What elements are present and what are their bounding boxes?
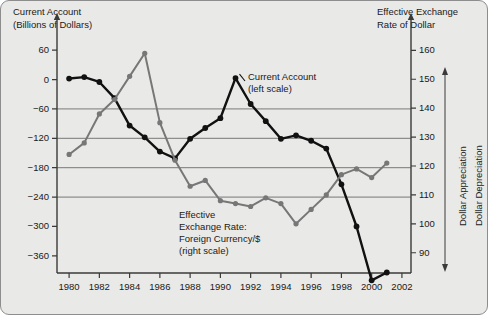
left-axis-tick-label: 60 [1,45,49,55]
data-point [308,138,314,144]
data-point [157,149,163,155]
x-axis-tick-label: 2000 [357,282,387,292]
x-axis-tick-label: 1998 [326,282,356,292]
data-point [233,201,238,206]
x-axis-tick-label: 1986 [145,282,175,292]
right-axis-tick-label: 140 [419,103,435,113]
data-point [339,181,345,187]
data-point [203,178,208,183]
x-axis-tick-label: 1996 [296,282,326,292]
data-point [248,101,254,107]
left-axis-tick-label: −300 [1,221,49,231]
data-point [97,111,102,116]
data-point [127,123,133,129]
data-point [142,51,147,56]
x-axis-tick-label: 1984 [115,282,145,292]
x-axis-tick-label: 1990 [205,282,235,292]
right-axis-tick-label: 90 [419,248,430,258]
left-axis-tick-label: −180 [1,163,49,173]
data-point [384,161,389,166]
data-point [157,120,162,125]
data-point [81,74,87,80]
data-point [112,97,117,102]
data-point [248,204,253,209]
left-axis-tick-label: −240 [1,192,49,202]
data-point [233,75,239,81]
data-point [324,192,329,197]
right-axis-tick-label: 120 [419,161,435,171]
left-axis-tick-label: −60 [1,104,49,114]
x-axis-tick-label: 1982 [84,282,114,292]
data-point [202,125,208,131]
data-point [369,175,374,180]
right-axis-tick-label: 100 [419,219,435,229]
x-axis-tick-label: 2002 [387,282,417,292]
data-point [127,74,132,79]
x-axis-tick-label: 1992 [236,282,266,292]
data-point [67,152,72,157]
data-point [172,158,177,163]
data-point [354,166,359,171]
left-axis-tick-label: −360 [1,251,49,261]
data-point [263,118,269,124]
data-point [187,136,193,142]
data-point [323,146,329,152]
x-axis-tick-label: 1994 [266,282,296,292]
chart-plot-area [1,1,488,315]
data-point [384,270,390,276]
data-point [82,140,87,145]
data-point [278,201,283,206]
left-axis-tick-label: −120 [1,133,49,143]
right-axis-tick-label: 110 [419,190,434,200]
data-point [354,224,360,230]
data-point [339,172,344,177]
data-point [142,134,148,140]
data-point [309,207,314,212]
data-point [293,221,298,226]
right-axis-tick-label: 160 [419,45,435,55]
data-point [217,115,223,121]
data-point [188,184,193,189]
data-point [278,136,284,142]
data-point [293,132,299,138]
data-point [96,79,102,85]
right-axis-tick-label: 130 [419,132,435,142]
data-point [218,198,223,203]
x-axis-tick-label: 1980 [54,282,84,292]
x-axis-tick-label: 1988 [175,282,205,292]
right-axis-tick-label: 150 [419,74,435,84]
chart-figure: Current Account(Billions of Dollars) Eff… [0,0,488,315]
data-point [66,76,72,82]
left-axis-tick-label: 0 [1,75,49,85]
data-point [263,195,268,200]
